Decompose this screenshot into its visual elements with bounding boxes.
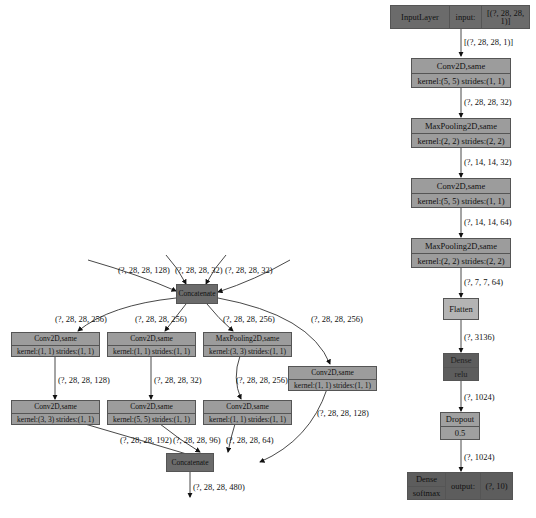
layer-title: Conv2D,same <box>412 59 510 73</box>
output-activation: softmax <box>408 486 445 500</box>
edge-label: (?, 1024) <box>464 452 495 462</box>
layer-detail: kernel:(1, 1) strides:(1, 1) <box>204 413 291 425</box>
edge-label: (?, 28, 28, 256) <box>223 314 275 324</box>
layer-title: Dropout <box>441 413 479 426</box>
edge-label: (?, 28, 28, 32) <box>464 97 512 107</box>
layer-title: MaxPooling2D,same <box>204 333 291 345</box>
branch2-conv-5x5: Conv2D,same kernel:(5, 5) strides:(1, 1) <box>107 400 196 425</box>
edge-label: (?, 28, 28, 32) <box>225 265 273 275</box>
concatenate-bottom-node: Concatenate <box>166 453 214 472</box>
output-shape: (?, 10) <box>480 473 512 499</box>
conv2d-node-1: Conv2D,same kernel:(5, 5) strides:(1, 1) <box>411 58 511 88</box>
input-shape: [(?, 28, 28, 1)] <box>481 6 529 28</box>
edge-label: (?, 7, 7, 64) <box>464 277 503 287</box>
layer-detail: kernel:(2, 2) strides:(2, 2) <box>412 253 510 268</box>
conv2d-node-2: Conv2D,same kernel:(5, 5) strides:(1, 1) <box>411 178 511 208</box>
layer-title: Conv2D,same <box>108 401 195 413</box>
output-dense-node: Dense softmax output: (?, 10) <box>407 472 513 500</box>
edge-label: (?, 28, 28, 256) <box>311 314 363 324</box>
edge-label: (?, 3136) <box>464 332 495 342</box>
edge-label: (?, 28, 28, 192) <box>120 435 172 445</box>
layer-title: Conv2D,same <box>12 401 99 413</box>
layer-detail: 0.5 <box>441 426 479 440</box>
layer-detail: kernel:(1, 1) strides:(1, 1) <box>12 345 99 357</box>
layer-title: Flatten <box>449 305 473 314</box>
layer-detail: kernel:(5, 5) strides:(1, 1) <box>108 413 195 425</box>
node-title: Concatenate <box>171 459 208 467</box>
layer-detail: kernel:(1, 1) strides:(1, 1) <box>289 379 376 391</box>
edge-label: (?, 28, 28, 128) <box>317 408 369 418</box>
branch3-conv-1x1: Conv2D,same kernel:(1, 1) strides:(1, 1) <box>203 400 292 425</box>
input-layer-node: InputLayer input: [(?, 28, 28, 1)] <box>390 5 530 29</box>
layer-detail: kernel:(2, 2) strides:(2, 2) <box>412 133 510 148</box>
branch1-conv-3x3: Conv2D,same kernel:(3, 3) strides:(1, 1) <box>11 400 100 425</box>
layer-title: MaxPooling2D,same <box>412 239 510 253</box>
layer-title: Conv2D,same <box>204 401 291 413</box>
branch3-maxpool-3x3: MaxPooling2D,same kernel:(3, 3) strides:… <box>203 332 292 357</box>
concatenate-top-node: Concatenate <box>176 284 218 304</box>
input-layer-name: InputLayer <box>391 6 449 28</box>
edge-label: (?, 14, 14, 64) <box>464 217 512 227</box>
edge-label: (?, 1024) <box>464 392 495 402</box>
edge-label: (?, 28, 28, 32) <box>175 265 223 275</box>
edge-label: (?, 28, 28, 64) <box>226 435 274 445</box>
edge-label: (?, 28, 28, 32) <box>154 375 202 385</box>
edge-label: (?, 28, 28, 256) <box>135 314 187 324</box>
layer-detail: kernel:(3, 3) strides:(1, 1) <box>12 413 99 425</box>
layer-title: Conv2D,same <box>12 333 99 345</box>
layer-title: Conv2D,same <box>108 333 195 345</box>
branch4-conv-1x1: Conv2D,same kernel:(1, 1) strides:(1, 1) <box>288 366 377 391</box>
edge-label: [(?, 28, 28, 1)] <box>464 37 513 47</box>
output-port-label: output: <box>445 473 480 499</box>
edge-label: (?, 28, 28, 128) <box>118 265 170 275</box>
edge-label: (?, 28, 28, 96) <box>173 435 221 445</box>
layer-title: Dense <box>444 354 478 367</box>
edge-label: (?, 28, 28, 256) <box>55 314 107 324</box>
edge-label: (?, 28, 28, 256) <box>236 375 288 385</box>
node-title: Concatenate <box>178 290 215 298</box>
branch2-conv-1x1: Conv2D,same kernel:(1, 1) strides:(1, 1) <box>107 332 196 357</box>
layer-detail: kernel:(3, 3) strides:(1, 1) <box>204 345 291 357</box>
dense-relu-node: Dense relu <box>443 353 479 381</box>
output-layer-name: Dense <box>408 473 445 486</box>
layer-title: MaxPooling2D,same <box>412 119 510 133</box>
branch1-conv-1x1: Conv2D,same kernel:(1, 1) strides:(1, 1) <box>11 332 100 357</box>
layer-detail: relu <box>444 367 478 381</box>
edge-label: (?, 28, 28, 480) <box>193 482 245 492</box>
edge-label: (?, 14, 14, 32) <box>464 157 512 167</box>
maxpool-node-2: MaxPooling2D,same kernel:(2, 2) strides:… <box>411 238 511 268</box>
layer-title: Conv2D,same <box>289 367 376 379</box>
edge-label: (?, 28, 28, 128) <box>58 375 110 385</box>
dropout-node: Dropout 0.5 <box>440 412 480 440</box>
flatten-node: Flatten <box>443 298 479 320</box>
layer-title: Conv2D,same <box>412 179 510 193</box>
layer-detail: kernel:(5, 5) strides:(1, 1) <box>412 193 510 208</box>
layer-detail: kernel:(5, 5) strides:(1, 1) <box>412 73 510 88</box>
input-port-label: input: <box>449 6 481 28</box>
layer-detail: kernel:(1, 1) strides:(1, 1) <box>108 345 195 357</box>
maxpool-node-1: MaxPooling2D,same kernel:(2, 2) strides:… <box>411 118 511 148</box>
